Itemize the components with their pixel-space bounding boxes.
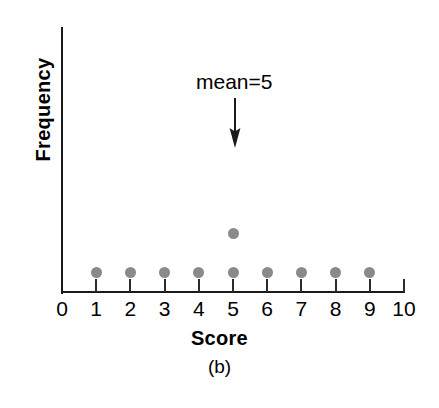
data-point	[228, 228, 239, 239]
x-axis-tick	[369, 279, 371, 292]
x-axis-tick	[164, 279, 166, 292]
panel-label: (b)	[0, 356, 439, 378]
data-point	[262, 267, 273, 278]
data-point	[125, 267, 136, 278]
x-axis-tick-label: 10	[384, 298, 424, 320]
data-point	[91, 267, 102, 278]
x-axis-tick	[266, 279, 268, 292]
x-axis-tick	[403, 279, 405, 292]
data-point	[193, 267, 204, 278]
x-axis-tick	[198, 279, 200, 292]
y-axis-line	[61, 27, 63, 294]
data-point	[364, 267, 375, 278]
data-point	[330, 267, 341, 278]
x-axis-tick	[95, 279, 97, 292]
x-axis-title: Score	[0, 327, 439, 350]
dot-plot-figure: 012345678910 Frequency Score (b) mean=5	[0, 0, 439, 408]
x-axis-tick	[232, 279, 234, 292]
data-point	[228, 267, 239, 278]
x-axis-tick	[300, 279, 302, 292]
x-axis-tick	[335, 279, 337, 292]
data-point	[159, 267, 170, 278]
y-axis-title: Frequency	[32, 25, 55, 195]
mean-annotation-label: mean=5	[196, 70, 272, 94]
x-axis-tick	[129, 279, 131, 292]
data-point	[296, 267, 307, 278]
down-arrow-icon	[228, 98, 242, 148]
